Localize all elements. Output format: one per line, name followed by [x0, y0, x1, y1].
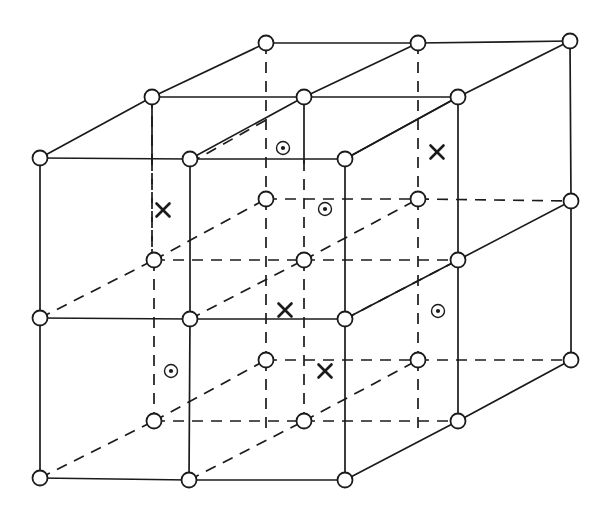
- lattice-node: [564, 353, 579, 368]
- lattice-node-circle: [297, 90, 312, 105]
- spin-up-center-dot: [169, 369, 173, 373]
- lattice-node: [338, 152, 353, 167]
- lattice-node-circle: [297, 253, 312, 268]
- lattice-node: [338, 312, 353, 327]
- lattice-node: [33, 471, 48, 486]
- spin-up-icon: [319, 203, 332, 216]
- lattice-node: [183, 312, 198, 327]
- lattice-node-circle: [297, 414, 312, 429]
- lattice-node: [411, 353, 426, 368]
- lattice-node-circle: [147, 414, 162, 429]
- lattice-node-circle: [259, 36, 274, 51]
- lattice-node-circle: [564, 194, 579, 209]
- lattice-node: [451, 414, 466, 429]
- lattice-node-circle: [451, 253, 466, 268]
- lattice-node-circle: [338, 312, 353, 327]
- lattice-node: [145, 90, 160, 105]
- lattice-node-circle: [563, 34, 578, 49]
- lattice-node-circle: [411, 36, 426, 51]
- lattice-node: [297, 90, 312, 105]
- lattice-node-circle: [451, 414, 466, 429]
- lattice-node-circle: [411, 353, 426, 368]
- lattice-node: [182, 473, 197, 488]
- lattice-node: [297, 253, 312, 268]
- lattice-node-circle: [183, 312, 198, 327]
- lattice-node: [183, 152, 198, 167]
- visible-edge: [189, 319, 190, 480]
- spin-up-icon: [277, 142, 290, 155]
- lattice-diagram-canvas: [0, 0, 608, 516]
- visible-edge: [40, 158, 190, 159]
- spin-up-icon: [165, 365, 178, 378]
- lattice-node: [338, 473, 353, 488]
- lattice-node: [297, 414, 312, 429]
- lattice-node: [259, 192, 274, 207]
- spin-up-center-dot: [323, 207, 327, 211]
- lattice-node-circle: [338, 473, 353, 488]
- lattice-node-circle: [182, 473, 197, 488]
- lattice-node: [451, 90, 466, 105]
- lattice-figure: [0, 0, 608, 516]
- lattice-node-circle: [147, 253, 162, 268]
- lattice-node-circle: [411, 192, 426, 207]
- lattice-node-circle: [259, 353, 274, 368]
- lattice-node: [33, 151, 48, 166]
- spin-up-center-dot: [281, 146, 285, 150]
- lattice-node: [564, 194, 579, 209]
- lattice-node-circle: [145, 90, 160, 105]
- lattice-node-circle: [564, 353, 579, 368]
- spin-up-center-dot: [436, 309, 440, 313]
- lattice-node: [451, 253, 466, 268]
- lattice-node-circle: [451, 90, 466, 105]
- lattice-node-circle: [259, 192, 274, 207]
- lattice-node-circle: [338, 152, 353, 167]
- lattice-node-circle: [183, 152, 198, 167]
- lattice-node: [563, 34, 578, 49]
- lattice-node-circle: [33, 311, 48, 326]
- visible-edge: [570, 41, 571, 201]
- lattice-node: [411, 36, 426, 51]
- lattice-node-circle: [33, 471, 48, 486]
- visible-edge: [40, 318, 190, 319]
- lattice-node-circle: [33, 151, 48, 166]
- spin-up-icon: [432, 305, 445, 318]
- lattice-node: [147, 253, 162, 268]
- lattice-node: [33, 311, 48, 326]
- lattice-node: [259, 353, 274, 368]
- lattice-node: [147, 414, 162, 429]
- lattice-node: [411, 192, 426, 207]
- lattice-node: [259, 36, 274, 51]
